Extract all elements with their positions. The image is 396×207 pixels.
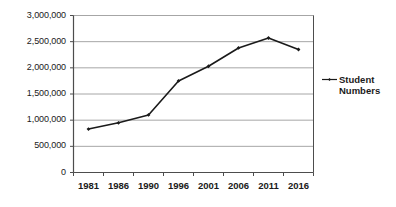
legend-label-line1: Student (339, 74, 374, 85)
x-axis-tick-label: 2006 (228, 181, 249, 191)
legend-label-line2: Numbers (339, 85, 380, 96)
line-chart: 0500,0001,000,0001,500,0002,000,0002,500… (0, 0, 396, 207)
x-axis-tick-label: 2016 (288, 181, 309, 191)
x-axis-tick-label: 2001 (198, 181, 219, 191)
x-axis-tick-label: 1981 (78, 181, 99, 191)
legend-item-student-numbers: StudentNumbers (339, 74, 394, 96)
x-axis-tick-label: 1986 (108, 181, 129, 191)
x-axis-tick-label: 1990 (138, 181, 159, 191)
chart-plot-area (0, 0, 396, 207)
x-axis-tick-label: 2011 (258, 181, 279, 191)
chart-legend: StudentNumbers (322, 74, 394, 96)
x-axis-tick-label: 1996 (168, 181, 189, 191)
legend-line-marker-icon (322, 78, 337, 81)
